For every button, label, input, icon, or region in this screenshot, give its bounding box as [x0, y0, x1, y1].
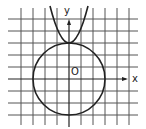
y-axis-label: y	[64, 5, 70, 16]
x-axis-arrow-icon	[122, 77, 128, 81]
origin-label: O	[71, 66, 79, 77]
y-axis-arrow-icon	[67, 19, 71, 25]
graph-canvas: x y O	[0, 0, 146, 129]
x-axis-label: x	[132, 73, 138, 84]
